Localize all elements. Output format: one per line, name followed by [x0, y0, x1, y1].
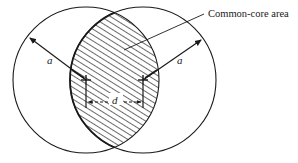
right-radius-label: a [177, 54, 183, 66]
common-core-label: Common-core area [208, 8, 289, 19]
left-radius-label: a [47, 54, 53, 66]
common-core-diagram: a a d Common-core area [0, 0, 298, 163]
center-distance-label: d [112, 94, 118, 106]
